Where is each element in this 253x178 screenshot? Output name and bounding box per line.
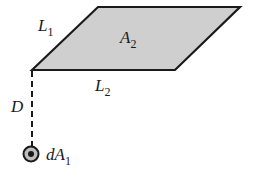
label-l2: L2 bbox=[94, 76, 110, 99]
label-d: D bbox=[10, 97, 24, 116]
element-da1-icon bbox=[24, 147, 39, 162]
diagram-canvas: A2 L1 L2 D dA1 bbox=[0, 0, 253, 178]
label-l1: L1 bbox=[37, 16, 53, 39]
label-da1: dA1 bbox=[46, 145, 71, 168]
